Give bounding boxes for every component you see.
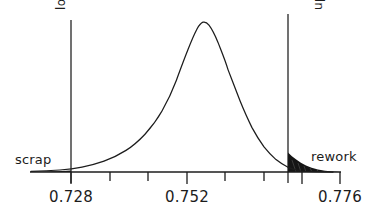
- process-capability-figure: lower spec = 0.730 upper spec = 0.770 sc…: [0, 0, 366, 213]
- scrap-zone-label: scrap: [15, 152, 51, 167]
- x-tick-label-right: 0.776: [318, 188, 362, 206]
- x-axis-ticks: [71, 172, 340, 184]
- x-tick-label-left: 0.728: [49, 188, 93, 206]
- rework-zone-label: rework: [311, 149, 357, 164]
- distribution-plot: [0, 0, 366, 213]
- x-tick-label-center: 0.752: [165, 188, 209, 206]
